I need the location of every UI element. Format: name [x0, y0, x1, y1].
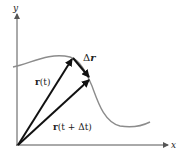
label-delta-r-bold: r — [90, 52, 96, 63]
y-axis-label: y — [12, 3, 19, 13]
label-delta-r-prefix: Δ — [83, 52, 90, 63]
trajectory-curve — [13, 56, 150, 127]
label-r-t: r(t) — [35, 77, 50, 87]
label-r-t-rest: (t) — [40, 77, 51, 87]
label-delta-r: Δr — [83, 52, 96, 63]
diagram-canvas: y x Δr r(t) r(t + Δt) — [0, 0, 185, 157]
x-axis-label: x — [171, 140, 176, 150]
label-r-t-plus-dt-rest: (t + Δt) — [58, 122, 92, 132]
label-r-t-plus-dt: r(t + Δt) — [53, 122, 92, 132]
